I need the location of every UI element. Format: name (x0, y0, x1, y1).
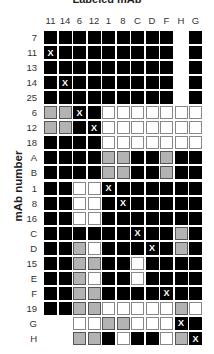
heatmap-cell (131, 182, 144, 195)
heatmap-cell (59, 272, 72, 285)
heatmap-cell (44, 76, 57, 89)
heatmap-cell (117, 332, 130, 345)
heatmap-cell (59, 242, 72, 255)
heatmap-cell (73, 121, 86, 134)
heatmap-cell (102, 197, 115, 210)
heatmap-cell (102, 227, 115, 240)
heatmap-cell (146, 317, 159, 330)
heatmap-cell (88, 287, 101, 300)
column-label: 1 (102, 15, 116, 26)
row-label: 16 (7, 212, 37, 225)
heatmap-cell (131, 212, 144, 225)
heatmap-cell (131, 317, 144, 330)
heatmap-cell (146, 332, 159, 345)
heatmap-cell (189, 317, 202, 330)
heatmap-cell (117, 272, 130, 285)
heatmap-cell (160, 166, 173, 179)
heatmap-cell (117, 287, 130, 300)
heatmap-cell (102, 272, 115, 285)
heatmap-cell: X (59, 76, 72, 89)
heatmap-cell (59, 136, 72, 149)
heatmap-cell (160, 182, 173, 195)
heatmap-cell (189, 227, 202, 240)
heatmap-cell (73, 151, 86, 164)
heatmap-cell (160, 227, 173, 240)
heatmap-cell (88, 136, 101, 149)
heatmap-cell (175, 182, 188, 195)
heatmap-cell (88, 151, 101, 164)
heatmap-cell (175, 242, 188, 255)
heatmap-cell: X (44, 46, 57, 59)
row-label: 12 (7, 121, 37, 134)
heatmap-cell (146, 31, 159, 44)
heatmap-cell (189, 242, 202, 255)
row-label: 14 (7, 76, 37, 89)
heatmap-cell (146, 106, 159, 119)
heatmap-cell (131, 302, 144, 315)
heatmap-cell (146, 76, 159, 89)
heatmap-cell (44, 136, 57, 149)
heatmap-cell (160, 76, 173, 89)
heatmap-cell (59, 197, 72, 210)
heatmap-cell (73, 257, 86, 270)
column-label: F (160, 15, 174, 26)
heatmap-cell (146, 272, 159, 285)
heatmap-cell (59, 106, 72, 119)
heatmap-cell (160, 61, 173, 74)
heatmap-cell (88, 91, 101, 104)
heatmap-cell (175, 257, 188, 270)
heatmap-cell (189, 136, 202, 149)
heatmap-cell (146, 212, 159, 225)
heatmap-cell (88, 317, 101, 330)
chart-title: Labeled mAb (0, 0, 214, 5)
heatmap-cell (175, 121, 188, 134)
heatmap-cell (189, 182, 202, 195)
heatmap-cell (44, 151, 57, 164)
heatmap-cell (117, 151, 130, 164)
heatmap-cell (102, 121, 115, 134)
heatmap-cell (88, 212, 101, 225)
heatmap-cell (131, 272, 144, 285)
heatmap-cell (59, 166, 72, 179)
heatmap-cell (160, 302, 173, 315)
heatmap-cell (146, 91, 159, 104)
row-label: A (7, 151, 37, 164)
row-label: B (7, 166, 37, 179)
column-label: D (145, 15, 159, 26)
column-label: 11 (44, 15, 58, 26)
heatmap-cell (146, 46, 159, 59)
heatmap-cell (131, 287, 144, 300)
heatmap-cell (117, 227, 130, 240)
heatmap-cell (175, 106, 188, 119)
heatmap-cell (73, 332, 86, 345)
heatmap-cell (73, 91, 86, 104)
heatmap-cell (88, 257, 101, 270)
heatmap-cell (59, 151, 72, 164)
row-label: H (7, 332, 37, 345)
heatmap-cell (160, 212, 173, 225)
row-label: 25 (7, 91, 37, 104)
heatmap-cell: X (102, 182, 115, 195)
heatmap-cell (73, 242, 86, 255)
column-label: C (131, 15, 145, 26)
heatmap-cell (189, 46, 202, 59)
heatmap-cell (131, 31, 144, 44)
heatmap-cell (160, 332, 173, 345)
heatmap-cell (73, 317, 86, 330)
heatmap-cell: X (146, 242, 159, 255)
heatmap-cell (131, 106, 144, 119)
heatmap-cell (59, 302, 72, 315)
heatmap-cell (117, 136, 130, 149)
heatmap-cell (44, 257, 57, 270)
heatmap-cell (160, 121, 173, 134)
row-label: 11 (7, 46, 37, 59)
heatmap-cell (117, 182, 130, 195)
row-label: E (7, 272, 37, 285)
heatmap-cell (102, 136, 115, 149)
heatmap-cell (189, 197, 202, 210)
heatmap-cell (160, 257, 173, 270)
heatmap-cell (146, 166, 159, 179)
heatmap-cell (59, 227, 72, 240)
heatmap-cell (102, 332, 115, 345)
heatmap-cell (88, 61, 101, 74)
